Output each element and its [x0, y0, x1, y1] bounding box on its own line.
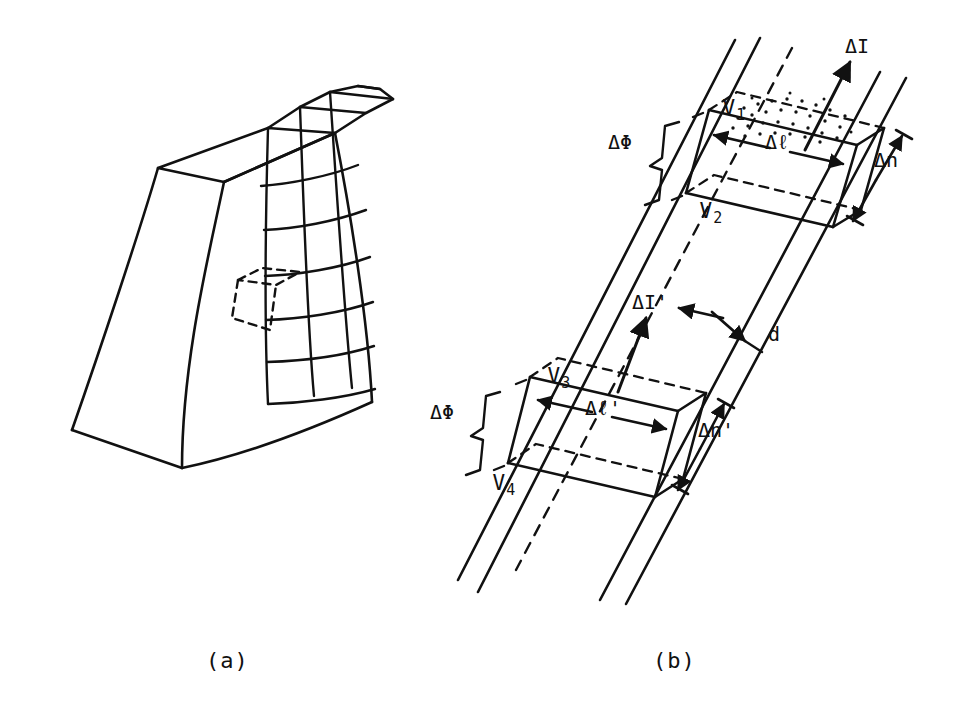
vertex-label-v3-subscript: 3	[561, 374, 570, 392]
vertex-label-v4-subscript: 4	[506, 481, 515, 499]
vertex-label-v4: V4	[442, 447, 514, 519]
vertex-label-v1-letter: V	[723, 96, 736, 120]
delta-n-label: Δn	[874, 148, 898, 172]
vertex-label-v2-letter: V	[700, 199, 713, 223]
vertex-label-v3: V3	[497, 340, 569, 412]
vertex-label-v4-letter: V	[493, 471, 506, 495]
vertex-label-v3-letter: V	[548, 364, 561, 388]
panel-b-drawing	[0, 0, 956, 725]
delta-I-label: ΔI	[845, 34, 869, 58]
vertex-label-v2: V2	[649, 175, 721, 247]
delta-l-label: Δℓ	[765, 130, 789, 155]
caption-panel-b: (b)	[653, 648, 696, 673]
vertex-label-v2-subscript: 2	[713, 209, 722, 227]
figure-canvas: V1 V2 V3 V4 ΔΦ ΔΦ Δℓ Δℓ' Δn Δn' ΔI ΔI' d…	[0, 0, 956, 725]
delta-phi-upper-label: ΔΦ	[608, 130, 632, 154]
d-thickness-label: d	[768, 322, 780, 346]
caption-panel-a: (a)	[206, 648, 249, 673]
delta-I-prime-label: ΔI'	[632, 290, 668, 314]
vertex-label-v1-subscript: 1	[736, 106, 745, 124]
delta-n-prime-label: Δn'	[698, 418, 734, 442]
delta-l-prime-label: Δℓ'	[585, 396, 621, 421]
delta-phi-lower-label: ΔΦ	[430, 400, 454, 424]
vertex-label-v1: V1	[672, 72, 744, 144]
